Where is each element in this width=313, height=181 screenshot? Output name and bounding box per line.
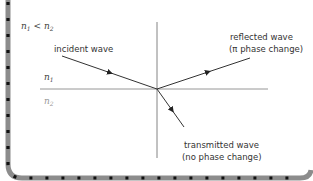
incident-wave-arrow bbox=[62, 56, 157, 89]
medium-top-label: n1 bbox=[44, 72, 54, 83]
transmitted-wave-arrow bbox=[157, 89, 184, 127]
wave-reflection-diagram: n1 < n2 n1 n2 incident wave reflected wa… bbox=[0, 0, 313, 181]
index-condition-label: n1 < n2 bbox=[21, 21, 54, 32]
medium-bottom-label: n2 bbox=[44, 96, 54, 107]
transmitted-wave-label-line2: (no phase change) bbox=[182, 152, 262, 162]
reflected-wave-arrow bbox=[157, 58, 250, 89]
reflected-wave-label-line2: (π phase change) bbox=[229, 44, 303, 54]
transmitted-wave-label-line1: transmitted wave bbox=[184, 140, 259, 150]
reflected-wave-label-line1: reflected wave bbox=[230, 32, 293, 42]
incident-wave-label: incident wave bbox=[54, 44, 113, 54]
